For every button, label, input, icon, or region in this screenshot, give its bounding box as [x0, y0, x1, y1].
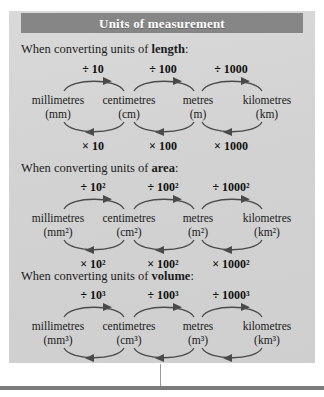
area-unit-abbreviations: (mm²) (cm²) (m²) (km²): [9, 225, 315, 239]
heading-prefix: When converting units of: [21, 269, 152, 283]
area-divide-label-2: ÷ 100²: [147, 180, 178, 194]
length-multiply-label-2: × 100: [149, 139, 177, 153]
volume-divide-label-3: ÷ 1000³: [212, 288, 249, 302]
footer-vertical-divider: [160, 364, 161, 386]
volume-unit-2: centimetres: [102, 319, 155, 333]
section-volume-heading: When converting units of volume:: [21, 269, 194, 284]
section-area-heading: When converting units of area:: [21, 161, 178, 176]
area-abbrev-3: (m²): [188, 225, 208, 239]
area-divide-label-1: ÷ 10²: [80, 180, 105, 194]
area-abbrev-4: (km²): [254, 225, 280, 239]
area-divide-label-3: ÷ 1000²: [212, 180, 249, 194]
length-unit-names: millimetres centimetres metres kilometre…: [9, 93, 315, 107]
volume-unit-4: kilometres: [243, 319, 292, 333]
units-of-measurement-figure: Units of measurement When converting uni…: [0, 0, 324, 397]
area-abbrev-2: (cm²): [116, 225, 141, 239]
length-divide-label-1: ÷ 10: [82, 62, 104, 76]
heading-suffix: :: [190, 269, 193, 283]
section-length-heading: When converting units of length:: [21, 42, 188, 57]
area-abbrev-1: (mm²): [44, 225, 73, 239]
length-multiply-arrows: [9, 121, 315, 139]
area-divide-arrows: [9, 193, 315, 211]
volume-divide-label-1: ÷ 10³: [80, 288, 105, 302]
area-unit-2: centimetres: [102, 211, 155, 225]
footer-bottom-margin: [0, 390, 324, 397]
volume-unit-names: millimetres centimetres metres kilometre…: [9, 319, 315, 333]
length-multiply-label-3: × 1000: [214, 139, 248, 153]
volume-unit-1: millimetres: [32, 319, 84, 333]
panel-title-bar: Units of measurement: [21, 13, 303, 33]
length-multiply-labels: × 10 × 100 × 1000: [9, 139, 315, 153]
area-unit-1: millimetres: [32, 211, 84, 225]
heading-keyword: area: [152, 161, 175, 175]
length-divide-label-2: ÷ 100: [149, 62, 177, 76]
length-abbrev-3: (m): [190, 107, 207, 121]
area-multiply-arrows: [9, 239, 315, 257]
volume-divide-label-2: ÷ 100³: [147, 288, 178, 302]
heading-prefix: When converting units of: [21, 42, 152, 56]
length-divide-arrows: [9, 75, 315, 93]
heading-keyword: length: [152, 42, 185, 56]
length-abbrev-1: (mm): [45, 107, 71, 121]
volume-divide-arrows: [9, 301, 315, 319]
length-divide-labels: ÷ 10 ÷ 100 ÷ 1000: [9, 62, 315, 76]
area-multiply-label-3: × 1000²: [212, 257, 249, 271]
measurement-panel: Units of measurement When converting uni…: [9, 11, 315, 363]
volume-divide-labels: ÷ 10³ ÷ 100³ ÷ 1000³: [9, 288, 315, 302]
heading-suffix: :: [185, 42, 188, 56]
length-unit-4: kilometres: [243, 93, 292, 107]
length-unit-abbreviations: (mm) (cm) (m) (km): [9, 107, 315, 121]
area-unit-names: millimetres centimetres metres kilometre…: [9, 211, 315, 225]
area-unit-3: metres: [183, 211, 214, 225]
length-unit-3: metres: [183, 93, 214, 107]
length-divide-label-3: ÷ 1000: [214, 62, 248, 76]
heading-prefix: When converting units of: [21, 161, 152, 175]
length-abbrev-4: (km): [256, 107, 278, 121]
page-title: Units of measurement: [99, 17, 225, 30]
volume-multiply-labels: × 10³ × 100³ × 1000³: [9, 344, 315, 358]
area-divide-labels: ÷ 10² ÷ 100² ÷ 1000²: [9, 180, 315, 194]
area-unit-4: kilometres: [243, 211, 292, 225]
heading-suffix: :: [175, 161, 178, 175]
volume-unit-3: metres: [183, 319, 214, 333]
length-multiply-label-1: × 10: [82, 139, 104, 153]
heading-keyword: volume: [152, 269, 191, 283]
length-abbrev-2: (cm): [118, 107, 140, 121]
length-unit-2: centimetres: [102, 93, 155, 107]
length-unit-1: millimetres: [32, 93, 84, 107]
